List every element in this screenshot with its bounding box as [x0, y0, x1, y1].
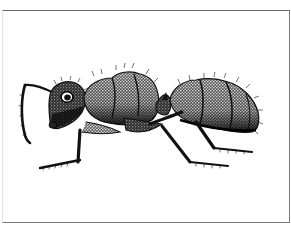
mandible: [49, 122, 57, 129]
eye-icon: [61, 92, 73, 103]
ant-thorax: [84, 63, 159, 125]
ant-gaster: [170, 72, 263, 134]
ant-illustration: [0, 0, 291, 233]
ant-head: [49, 76, 88, 129]
